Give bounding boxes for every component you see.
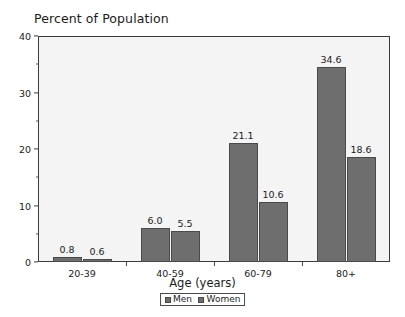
chart-title: Percent of Population xyxy=(34,11,169,26)
bar-value-label: 5.5 xyxy=(177,218,192,229)
bar-value-label: 21.1 xyxy=(232,130,253,141)
bar-chart: Percent of Population 010203040 0.80.66.… xyxy=(0,0,405,317)
bar-value-label: 10.6 xyxy=(262,189,283,200)
bar-value-label: 6.0 xyxy=(147,215,162,226)
bar-value-label: 18.6 xyxy=(350,144,371,155)
bar-value-label: 0.6 xyxy=(89,246,104,257)
legend-label: Men xyxy=(173,295,192,304)
y-axis-tick-label: 30 xyxy=(19,87,31,98)
bars-layer: 0.80.66.05.521.110.634.618.6 xyxy=(38,36,390,262)
chart-legend: MenWomen xyxy=(160,293,246,306)
bar-women-60-79[interactable] xyxy=(259,202,288,262)
bar-men-40-59[interactable] xyxy=(141,228,170,262)
legend-label: Women xyxy=(207,295,241,304)
y-axis: 010203040 xyxy=(0,36,38,262)
bar-value-label: 34.6 xyxy=(320,54,341,65)
bar-men-60-79[interactable] xyxy=(229,143,258,262)
y-axis-tick-label: 10 xyxy=(19,200,31,211)
y-axis-tick-label: 20 xyxy=(19,144,31,155)
bar-women-80+[interactable] xyxy=(347,157,376,262)
y-axis-tick-label: 0 xyxy=(25,257,31,268)
legend-swatch-icon xyxy=(198,297,204,303)
bar-value-label: 0.8 xyxy=(59,244,74,255)
legend-swatch-icon xyxy=(165,297,171,303)
x-axis-tick-mark xyxy=(302,262,303,266)
x-axis-title: Age (years) xyxy=(0,276,405,290)
legend-entry-women[interactable]: Women xyxy=(198,295,240,304)
bar-women-40-59[interactable] xyxy=(171,231,200,262)
bar-men-80+[interactable] xyxy=(317,67,346,262)
legend-entry-men[interactable]: Men xyxy=(165,295,193,304)
x-axis-tick-mark xyxy=(214,262,215,266)
x-axis-tick-mark xyxy=(126,262,127,266)
y-axis-tick-label: 40 xyxy=(19,31,31,42)
